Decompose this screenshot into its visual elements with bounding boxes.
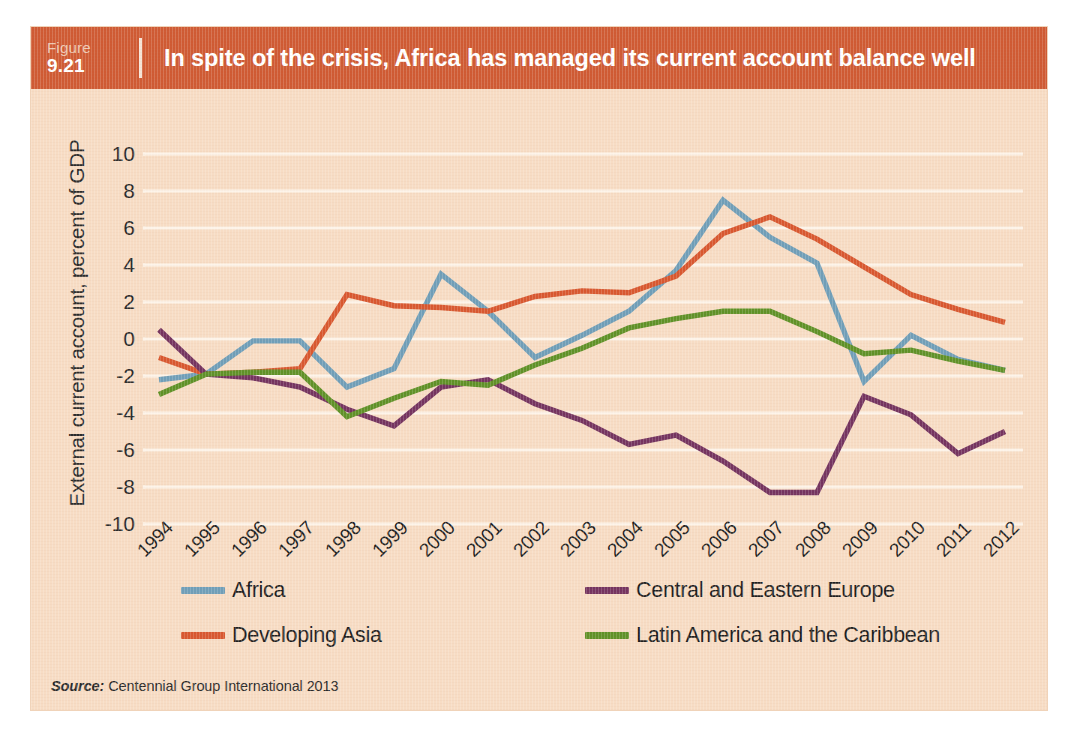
y-axis-title: External current account, percent of GDP (65, 123, 89, 523)
header-divider (139, 38, 142, 78)
y-tick-label: 2 (89, 291, 135, 312)
source-note: Source: Centennial Group International 2… (51, 678, 339, 694)
y-tick-label: 4 (89, 254, 135, 275)
chart-legend: AfricaCentral and Eastern EuropeDevelopi… (181, 575, 1011, 665)
legend-label: Central and Eastern Europe (636, 578, 895, 603)
figure-number-block: Figure 9.21 (31, 40, 139, 76)
source-prefix: Source: (51, 678, 104, 694)
legend-item[interactable]: Latin America and the Caribbean (585, 620, 940, 650)
figure-header-bar: Figure 9.21 In spite of the crisis, Afri… (31, 27, 1047, 89)
legend-item[interactable]: Central and Eastern Europe (585, 575, 895, 605)
source-text: Centennial Group International 2013 (108, 678, 338, 694)
y-tick-label: -2 (89, 365, 135, 386)
y-tick-label: -4 (89, 402, 135, 423)
y-axis-tick-labels: 1086420-2-4-6-8-10 (91, 89, 135, 710)
legend-item[interactable]: Africa (181, 575, 285, 605)
y-tick-label: -6 (89, 439, 135, 460)
legend-color-swatch (585, 632, 629, 639)
figure-label-word: Figure (47, 40, 139, 56)
legend-color-swatch (181, 587, 225, 594)
figure-panel: Figure 9.21 In spite of the crisis, Afri… (31, 27, 1047, 710)
y-tick-label: -8 (89, 476, 135, 497)
figure-title: In spite of the crisis, Africa has manag… (164, 45, 976, 72)
y-tick-label: -10 (89, 513, 135, 534)
figure-number: 9.21 (47, 56, 139, 76)
legend-label: Africa (232, 578, 285, 603)
legend-label: Developing Asia (232, 623, 382, 648)
legend-label: Latin America and the Caribbean (636, 623, 940, 648)
legend-item[interactable]: Developing Asia (181, 620, 382, 650)
y-tick-label: 10 (89, 143, 135, 164)
legend-color-swatch (181, 632, 225, 639)
y-tick-label: 8 (89, 180, 135, 201)
y-tick-label: 0 (89, 328, 135, 349)
y-tick-label: 6 (89, 217, 135, 238)
legend-color-swatch (585, 587, 629, 594)
